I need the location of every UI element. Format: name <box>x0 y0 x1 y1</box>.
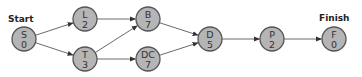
edge-arrow-s-to-l <box>35 23 73 35</box>
edge-arrow-s-to-t <box>35 43 73 55</box>
node-duration: 0 <box>331 39 337 50</box>
node-duration: 0 <box>21 39 27 50</box>
node-t: T3 <box>73 47 97 71</box>
node-l: L2 <box>73 7 97 31</box>
node-dc: DC7 <box>136 47 160 71</box>
node-duration: 2 <box>82 19 88 30</box>
node-duration: 3 <box>82 59 88 70</box>
node-duration: 7 <box>145 19 151 30</box>
edge-arrow-t-to-b <box>95 26 137 53</box>
node-b: B7 <box>136 7 160 31</box>
node-d: D5 <box>198 27 222 51</box>
finish-label: Finish <box>319 13 350 23</box>
node-f: F0 <box>322 27 346 51</box>
node-duration: 2 <box>269 39 275 50</box>
edge-arrow-dc-to-d <box>159 43 198 56</box>
edge-arrow-b-to-d <box>159 23 198 36</box>
node-duration: 7 <box>145 59 151 70</box>
node-duration: 5 <box>207 39 213 50</box>
node-p: P2 <box>260 27 284 51</box>
network-diagram: Start Finish S0L2T3B7DC7D5P2F0 <box>0 0 362 77</box>
node-s: S0 <box>12 27 36 51</box>
start-label: Start <box>8 14 34 24</box>
